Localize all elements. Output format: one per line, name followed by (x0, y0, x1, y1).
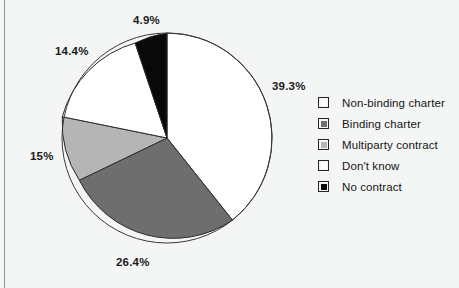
legend-item-label: Multiparty contract (342, 139, 438, 151)
legend-item-label: No contract (342, 181, 402, 193)
slice-label-non-binding-charter: 39.3% (272, 80, 306, 92)
legend-swatch-icon (318, 139, 329, 150)
slice-label-multiparty-contract: 15% (30, 150, 54, 162)
legend-item-non-binding-charter[interactable]: Non-binding charter (318, 92, 456, 113)
legend-item-label: Non-binding charter (342, 97, 445, 109)
legend-item-dont-know[interactable]: Don't know (318, 155, 456, 176)
legend-swatch-icon (318, 181, 329, 192)
legend-item-no-contract[interactable]: No contract (318, 176, 456, 197)
slice-label-dont-know: 14.4% (55, 45, 89, 57)
pie-chart-figure: 39.3% 26.4% 15% 14.4% 4.9% Non-binding c… (0, 0, 459, 288)
legend-item-multiparty-contract[interactable]: Multiparty contract (318, 134, 456, 155)
legend-swatch-icon (318, 160, 329, 171)
slice-label-binding-charter: 26.4% (116, 256, 150, 268)
legend-item-label: Binding charter (342, 118, 421, 130)
legend-item-label: Don't know (342, 160, 400, 172)
chart-legend: Non-binding charter Binding charter Mult… (318, 92, 456, 197)
legend-swatch-icon (318, 97, 329, 108)
legend-swatch-icon (318, 118, 329, 129)
slice-label-no-contract: 4.9% (133, 14, 160, 26)
legend-item-binding-charter[interactable]: Binding charter (318, 113, 456, 134)
